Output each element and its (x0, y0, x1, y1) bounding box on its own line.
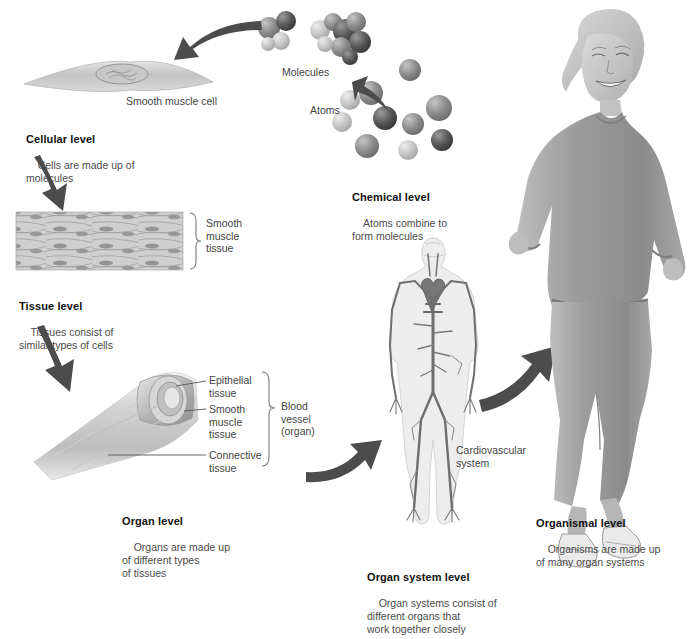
cardiovascular-system-label: Cardiovascular system (456, 444, 526, 469)
chemical-level-caption: Chemical level Atoms combine to form mol… (352, 166, 447, 255)
organ-system-level-caption: Organ system level Organ systems consist… (367, 546, 497, 639)
blood-vessel-illustration (34, 372, 198, 480)
organ-system-level-body: Organ systems consist of different organ… (367, 597, 497, 634)
organ-bracket (262, 372, 275, 466)
smooth-muscle-tissue-illustration (16, 212, 183, 270)
arrow-organ-to-organsystem (306, 440, 382, 482)
arrow-molecules-to-cell (174, 21, 262, 60)
atoms-label: Atoms (310, 104, 340, 117)
cardiovascular-system-illustration (389, 238, 478, 524)
organ-system-level-heading: Organ system level (367, 571, 497, 584)
epithelial-tissue-label: Epithelial tissue (209, 374, 252, 399)
blood-vessel-organ-label: Blood vessel (organ) (281, 400, 315, 438)
tissue-bracket (190, 213, 201, 269)
organismal-level-heading: Organismal level (536, 517, 660, 530)
tissue-level-heading: Tissue level (19, 300, 114, 313)
organ-level-body: Organs are made up of different types of… (122, 541, 230, 578)
chemical-level-body: Atoms combine to form molecules (352, 217, 447, 242)
cellular-level-heading: Cellular level (26, 133, 135, 146)
organism-illustration (509, 9, 685, 567)
smooth-muscle-tissue-label: Smooth muscle tissue (206, 217, 242, 255)
tissue-level-caption: Tissue level Tissues consist of similar … (19, 275, 114, 364)
organ-level-heading: Organ level (122, 515, 230, 528)
organ-level-caption: Organ level Organs are made up of differ… (122, 490, 230, 592)
organismal-level-caption: Organismal level Organisms are made up o… (536, 492, 660, 581)
tissue-level-body: Tissues consist of similar types of cell… (19, 326, 114, 351)
smooth-muscle-cell-illustration (24, 61, 213, 91)
organ-smooth-muscle-tissue-label: Smooth muscle tissue (209, 403, 245, 441)
connective-tissue-label: Connective tissue (209, 449, 262, 474)
molecules-label: Molecules (282, 66, 329, 79)
organismal-level-body: Organisms are made up of many organ syst… (536, 543, 660, 568)
arrow-organsystem-to-organism (479, 346, 556, 412)
smooth-muscle-cell-label: Smooth muscle cell (126, 95, 217, 108)
atoms-illustration (332, 59, 453, 160)
chemical-level-heading: Chemical level (352, 191, 447, 204)
cellular-level-body: Cells are made up of molecules (26, 159, 135, 184)
molecules-illustration (258, 11, 371, 65)
cellular-level-caption: Cellular level Cells are made up of mole… (26, 108, 135, 197)
